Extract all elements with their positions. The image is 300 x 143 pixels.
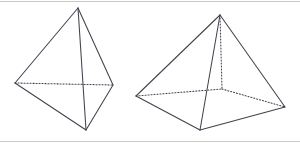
figure-svg-canvas	[0, 0, 300, 143]
geometric-solids-figure: Two geometric solids line drawing	[0, 0, 300, 143]
figure-background	[0, 0, 300, 143]
